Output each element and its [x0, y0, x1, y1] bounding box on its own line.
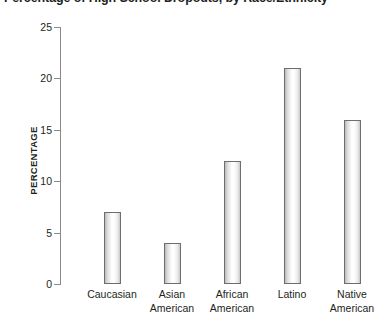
- y-axis-tick-mark: [54, 181, 60, 182]
- bar-african-american: [224, 161, 241, 284]
- y-axis-tick-label: 15: [22, 125, 52, 135]
- y-axis-tick-mark: [54, 27, 60, 28]
- x-axis-label: NativeAmerican: [307, 288, 381, 315]
- y-axis-title: PERCENTAGE: [28, 106, 39, 216]
- y-axis-tick-label: 10: [22, 176, 52, 186]
- bar-latino: [284, 68, 301, 284]
- bar-chart: Percentage of High School Dropouts, by R…: [0, 0, 381, 326]
- x-axis-label-line2: American: [187, 302, 277, 316]
- y-axis-tick-label: 25: [22, 22, 52, 32]
- y-axis-tick-label: 0: [22, 279, 52, 289]
- y-axis-tick-mark: [54, 284, 60, 285]
- y-axis-tick-mark: [54, 78, 60, 79]
- x-axis-label-line2: American: [307, 302, 381, 316]
- x-axis-label-line1: Latino: [278, 288, 307, 300]
- x-axis-label-line1: Native: [337, 288, 367, 300]
- bar-caucasian: [104, 212, 121, 284]
- x-axis-label-line1: Asian: [159, 288, 185, 300]
- y-axis-line: [60, 27, 61, 285]
- chart-title: Percentage of High School Dropouts, by R…: [4, 0, 381, 5]
- bar-asian-american: [164, 243, 181, 284]
- y-axis-tick-label: 5: [22, 228, 52, 238]
- bar-native-american: [344, 120, 361, 284]
- y-axis-tick-mark: [54, 130, 60, 131]
- y-axis-tick-label: 20: [22, 73, 52, 83]
- y-axis-tick-mark: [54, 233, 60, 234]
- x-axis-label-line1: African: [216, 288, 249, 300]
